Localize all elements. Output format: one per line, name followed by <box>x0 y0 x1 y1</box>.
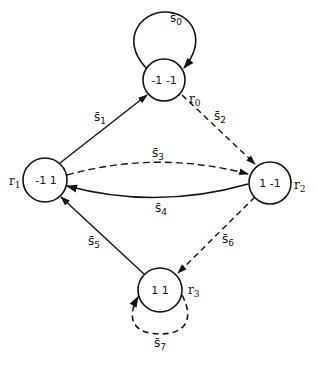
node-r2-value: 1 -1 <box>259 177 280 190</box>
state-transition-diagram: -1 -1 r0 -1 1 r1 1 -1 r2 1 1 r3 s̄0 s̄1 … <box>0 0 317 368</box>
node-r0: -1 -1 r0 <box>143 59 201 108</box>
node-r1-name: r1 <box>9 174 20 190</box>
edge-label-s3: s̄3 <box>152 146 164 162</box>
edge-label-s6: s̄6 <box>222 232 234 248</box>
edge-label-s0: s̄0 <box>170 11 182 27</box>
node-r1: -1 1 r1 <box>9 158 67 202</box>
edge-label-s1: s̄1 <box>94 110 106 126</box>
edge-s1 <box>60 95 147 163</box>
edge-s6 <box>178 197 255 273</box>
node-r3: 1 1 r3 <box>138 268 200 312</box>
node-r3-value: 1 1 <box>151 284 169 297</box>
node-r1-value: -1 1 <box>35 174 56 187</box>
edge-label-s7: s̄7 <box>154 336 166 352</box>
edge-label-s4: s̄4 <box>155 201 167 217</box>
edge-label-s2: s̄2 <box>214 109 226 125</box>
node-r2: 1 -1 r2 <box>249 162 305 204</box>
edge-s5 <box>61 197 144 274</box>
node-r0-value: -1 -1 <box>151 74 176 87</box>
node-r0-name: r0 <box>189 92 201 108</box>
node-r3-name: r3 <box>188 283 200 299</box>
edge-s4 <box>67 184 248 198</box>
edge-label-s5: s̄5 <box>88 234 100 250</box>
node-r2-name: r2 <box>294 178 305 194</box>
edge-s3 <box>67 162 248 175</box>
